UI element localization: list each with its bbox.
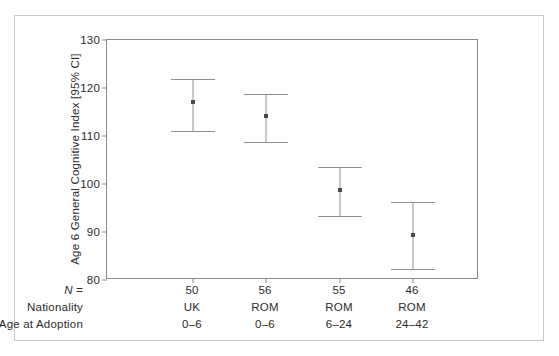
cell-age-1: 0–6 <box>182 318 202 330</box>
y-tick-label: 120 <box>80 82 100 94</box>
y-tick-mark <box>102 280 107 281</box>
cell-nat-3: ROM <box>325 301 352 313</box>
data-point-marker <box>338 188 342 192</box>
cell-n-4: 46 <box>405 284 418 296</box>
errorbar-group-4 <box>391 202 435 270</box>
figure-panel: Age 6 General Cognitive Index [95% CI] 1… <box>14 15 544 341</box>
row-label-age-at-adoption: Age at Adoption <box>0 318 83 330</box>
y-tick-mark <box>102 184 107 185</box>
y-tick-label: 110 <box>81 130 100 142</box>
cell-n-3: 55 <box>332 284 345 296</box>
y-tick-mark <box>102 136 107 137</box>
y-axis-title: Age 6 General Cognitive Index [95% CI] <box>67 39 83 279</box>
errorbar-lower-cap <box>244 142 288 143</box>
cell-nat-4: ROM <box>398 301 425 313</box>
x-axis-label-table: N = Nationality Age at Adoption 50 UK 0–… <box>15 284 545 340</box>
y-tick-label: 130 <box>80 34 100 46</box>
plot-area: 130 120 110 100 90 80 <box>106 39 478 279</box>
cell-nat-1: UK <box>184 301 200 313</box>
cell-n-2: 56 <box>258 284 271 296</box>
x-tick-mark-3 <box>340 278 341 283</box>
cell-age-4: 24–42 <box>396 318 429 330</box>
errorbar-group-2 <box>244 94 288 143</box>
cell-n-1: 50 <box>185 284 198 296</box>
cell-age-2: 0–6 <box>255 318 275 330</box>
errorbar-group-3 <box>318 167 362 216</box>
errorbar-line <box>193 79 194 131</box>
y-tick-label: 100 <box>80 178 100 190</box>
errorbar-line <box>266 94 267 143</box>
y-tick-label: 90 <box>87 226 100 238</box>
cell-age-3: 6–24 <box>326 318 352 330</box>
x-tick-mark-4 <box>413 278 414 283</box>
row-label-nationality: Nationality <box>0 301 83 313</box>
cell-nat-2: ROM <box>251 301 278 313</box>
x-tick-mark-2 <box>266 278 267 283</box>
errorbar-lower-cap <box>318 216 362 217</box>
y-tick-mark <box>102 232 107 233</box>
data-point-marker <box>191 100 195 104</box>
y-axis-title-label: Age 6 General Cognitive Index [95% CI] <box>69 53 81 265</box>
y-tick-mark <box>102 40 107 41</box>
errorbar-lower-cap <box>391 269 435 270</box>
y-tick-mark <box>102 88 107 89</box>
errorbar-group-1 <box>171 79 215 131</box>
row-label-n: N = <box>0 284 83 296</box>
data-point-marker <box>264 114 268 118</box>
errorbar-lower-cap <box>171 131 215 132</box>
data-point-marker <box>411 233 415 237</box>
x-tick-mark-1 <box>193 278 194 283</box>
